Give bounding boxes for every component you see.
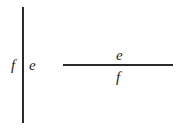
vertical-line — [22, 7, 24, 123]
vertical-right-label: e — [29, 58, 36, 73]
horizontal-line — [63, 64, 173, 66]
horizontal-top-label: e — [116, 48, 123, 63]
horizontal-bottom-label: f — [116, 70, 120, 85]
vertical-left-label: f — [11, 58, 15, 73]
